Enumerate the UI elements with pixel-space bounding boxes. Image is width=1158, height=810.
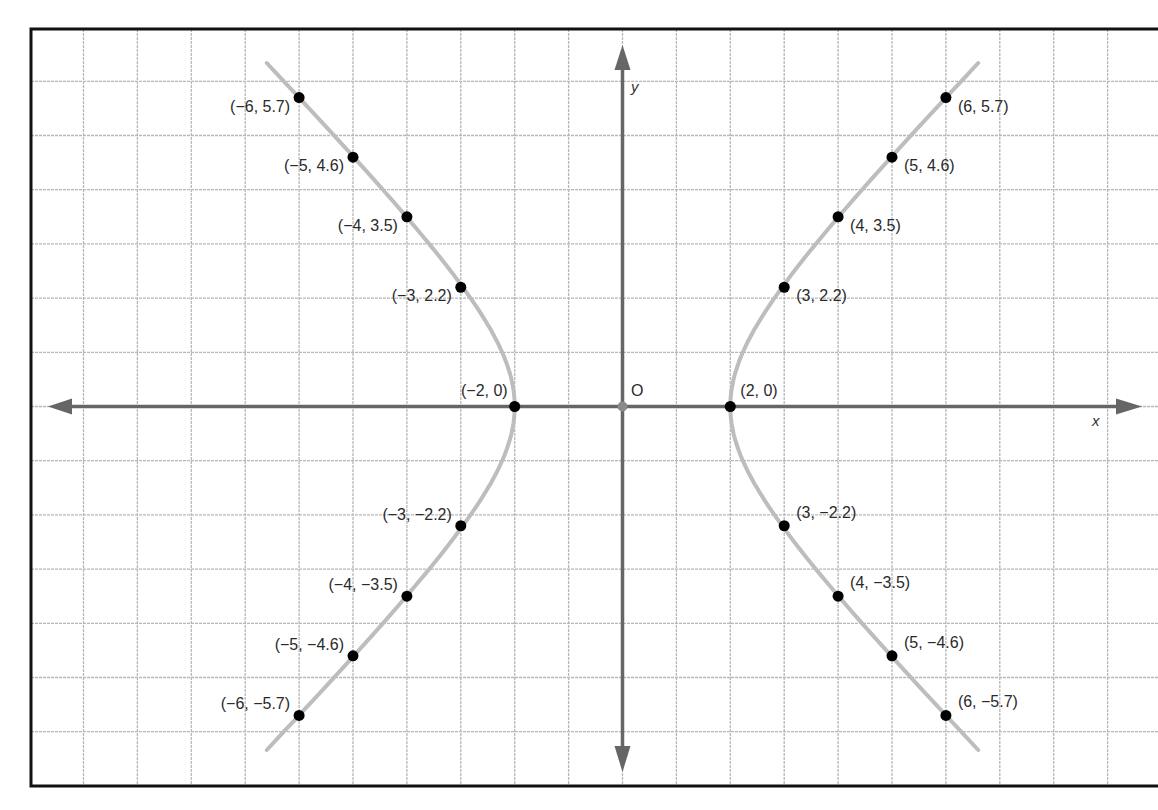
point-label: (3, −2.2) (796, 504, 856, 521)
data-point (833, 211, 844, 222)
data-point (887, 650, 898, 661)
point-label: (−3, 2.2) (392, 287, 452, 304)
point-label: (4, −3.5) (850, 574, 910, 591)
data-point (833, 591, 844, 602)
point-label: (2, 0) (740, 382, 777, 399)
point-label: (6, −5.7) (958, 693, 1018, 710)
data-point (348, 152, 359, 163)
point-label: (−4, 3.5) (338, 217, 398, 234)
x-axis-label: x (1091, 412, 1100, 429)
data-point (509, 401, 520, 412)
point-label: (−2, 0) (461, 382, 508, 399)
origin-marker (618, 402, 628, 412)
data-point (940, 710, 951, 721)
data-point (401, 211, 412, 222)
data-point (294, 710, 305, 721)
point-label: (3, 2.2) (796, 287, 847, 304)
data-point (455, 282, 466, 293)
data-point (887, 152, 898, 163)
point-label: (5, −4.6) (904, 634, 964, 651)
point-label: (−5, −4.6) (275, 636, 344, 653)
point-label: (−5, 4.6) (284, 157, 344, 174)
point-label: (−3, −2.2) (382, 506, 451, 523)
x-axis-right-arrow-icon (1116, 399, 1142, 415)
data-point (940, 92, 951, 103)
y-axis-bottom-arrow-icon (615, 746, 631, 772)
data-point (401, 591, 412, 602)
point-label: (5, 4.6) (904, 157, 955, 174)
point-label: (4, 3.5) (850, 217, 901, 234)
y-axis-label: y (630, 78, 640, 95)
data-point (725, 401, 736, 412)
data-point (294, 92, 305, 103)
point-label: (6, 5.7) (958, 98, 1009, 115)
point-label: (−6, −5.7) (221, 695, 290, 712)
data-point (779, 520, 790, 531)
data-point (348, 650, 359, 661)
data-point (455, 520, 466, 531)
origin-label: O (631, 382, 643, 399)
point-label: (−4, −3.5) (329, 576, 398, 593)
x-axis-left-arrow-icon (48, 399, 72, 415)
coordinate-axes: xyO (48, 45, 1142, 772)
hyperbola-diagram: xyO (−6, 5.7)(−5, 4.6)(−4, 3.5)(−3, 2.2)… (0, 0, 1158, 810)
y-axis-top-arrow-icon (615, 45, 631, 70)
point-label: (−6, 5.7) (230, 98, 290, 115)
data-point (779, 282, 790, 293)
